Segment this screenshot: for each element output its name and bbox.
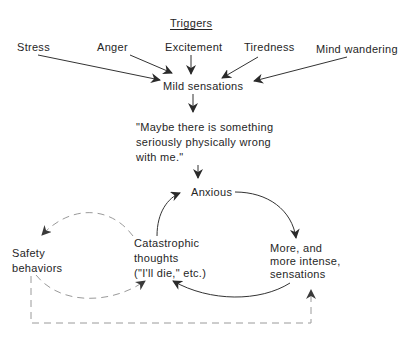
catastrophic-line-3: ("I'll die," etc.) [134, 266, 206, 281]
safety-line-2: behaviors [12, 261, 62, 276]
trigger-anger: Anger [97, 40, 128, 54]
node-more-sensations: More, and more intense, sensations [270, 242, 341, 281]
node-belief: "Maybe there is something seriously phys… [136, 120, 273, 165]
trigger-arrows [38, 55, 347, 81]
catastrophic-line-1: Catastrophic [134, 236, 206, 251]
safety-line-1: Safety [12, 246, 62, 261]
node-anxious: Anxious [191, 185, 232, 199]
more-line-2: more intense, [270, 255, 341, 268]
belief-line-2: seriously physically wrong [136, 135, 273, 150]
node-mild-sensations: Mild sensations [163, 79, 243, 93]
arrow-mind-wandering [254, 57, 347, 81]
trigger-excitement: Excitement [165, 40, 222, 54]
arrow-stress [38, 55, 160, 80]
arrow-anxious-to-more [235, 192, 296, 238]
more-line-1: More, and [270, 242, 341, 255]
belief-line-1: "Maybe there is something [136, 120, 273, 135]
node-catastrophic-thoughts: Catastrophic thoughts ("I'll die," etc.) [134, 236, 206, 281]
trigger-tiredness: Tiredness [244, 40, 295, 54]
more-line-3: sensations [270, 268, 341, 281]
catastrophic-line-2: thoughts [134, 251, 206, 266]
arrow-catastrophic-to-anxious [157, 193, 180, 236]
trigger-mind-wandering: Mind wandering [316, 42, 398, 56]
belief-line-3: with me." [136, 150, 273, 165]
triggers-heading: Triggers [170, 16, 212, 30]
arrow-anger [130, 55, 172, 73]
arrow-more-to-catastrophic [173, 281, 290, 297]
arrow-catastrophic-to-safety [42, 213, 133, 236]
arrow-safety-to-catastrophic [36, 275, 145, 298]
trigger-stress: Stress [17, 40, 50, 54]
arrow-safety-to-more [31, 276, 311, 323]
arrow-tiredness [222, 57, 258, 78]
node-safety-behaviors: Safety behaviors [12, 246, 62, 276]
